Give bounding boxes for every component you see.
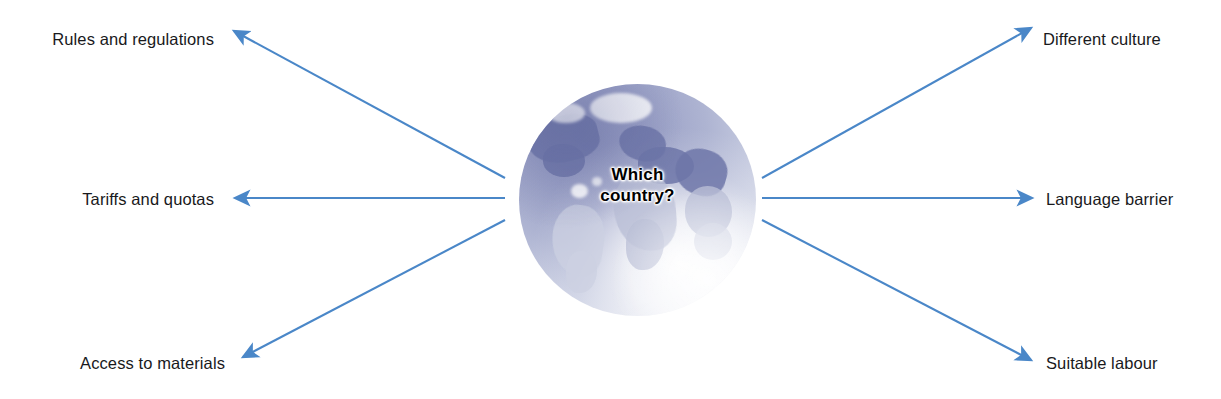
arrow-access-to-materials: [243, 220, 505, 357]
center-label-line2: country?: [519, 186, 756, 207]
label-language-barrier: Language barrier: [1046, 191, 1173, 208]
label-suitable-labour: Suitable labour: [1046, 355, 1158, 372]
center-label-line1: Which: [612, 165, 664, 184]
center-node-label: Which country?: [519, 165, 756, 206]
arrow-different-culture: [762, 28, 1031, 178]
arrow-rules-and-regulations: [234, 31, 505, 178]
arrow-suitable-labour: [762, 220, 1031, 360]
label-access-to-materials: Access to materials: [80, 355, 225, 372]
label-tariffs-and-quotas: Tariffs and quotas: [82, 191, 214, 208]
label-rules-and-regulations: Rules and regulations: [52, 31, 214, 48]
label-different-culture: Different culture: [1043, 31, 1161, 48]
diagram-canvas: Which country? Rules and regulations Tar…: [0, 0, 1221, 399]
